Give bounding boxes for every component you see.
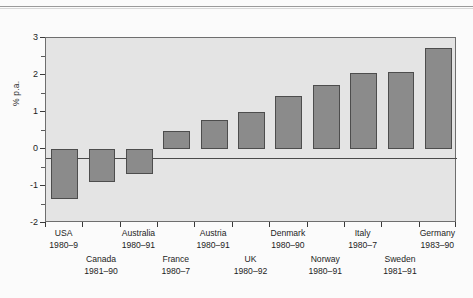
x-category-label: Australia1980–91 <box>108 228 168 251</box>
y-tick-label: 1 <box>16 107 38 116</box>
bar <box>425 48 452 149</box>
y-axis-tick-labels: -2-10123 <box>16 37 38 227</box>
category-period: 1980–91 <box>295 266 355 278</box>
bar <box>275 96 302 149</box>
category-name: Denmark <box>258 228 318 240</box>
x-category-label: Italy1980–7 <box>333 228 393 251</box>
x-category-label: Canada1981–90 <box>71 254 131 277</box>
y-tick-mark-major <box>40 148 45 149</box>
x-tick-mark <box>455 222 456 227</box>
x-category-label: Austria1980–91 <box>183 228 243 251</box>
x-tick-mark <box>307 222 308 227</box>
plot-area <box>45 37 456 222</box>
y-tick-mark-minor <box>41 56 45 57</box>
x-category-label: Denmark1980–90 <box>258 228 318 251</box>
y-tick-label: 0 <box>16 144 38 153</box>
category-period: 1980–9 <box>34 240 94 252</box>
page-canvas: % p.a. -2-10123 USA1980–9Canada1981–90Au… <box>0 0 473 298</box>
category-period: 1980–7 <box>333 240 393 252</box>
x-tick-mark <box>232 222 233 227</box>
y-tick-label: -1 <box>16 181 38 190</box>
x-category-label: Norway1980–91 <box>295 254 355 277</box>
category-period: 1980–7 <box>146 266 206 278</box>
y-tick-label: 2 <box>16 70 38 79</box>
x-tick-mark <box>344 222 345 227</box>
bar-series <box>46 38 457 223</box>
y-tick-mark-major <box>40 222 45 223</box>
category-name: USA <box>34 228 94 240</box>
category-period: 1980–90 <box>258 240 318 252</box>
y-tick-mark-major <box>40 185 45 186</box>
x-category-label: UK1980–92 <box>221 254 281 277</box>
bar-chart-figure: % p.a. -2-10123 USA1980–9Canada1981–90Au… <box>0 14 473 298</box>
category-name: Austria <box>183 228 243 240</box>
category-name: Norway <box>295 254 355 266</box>
y-tick-mark-minor <box>41 130 45 131</box>
category-period: 1980–91 <box>183 240 243 252</box>
x-category-label: Germany1983–90 <box>407 228 467 251</box>
x-axis-category-labels: USA1980–9Canada1981–90Australia1980–91Fr… <box>45 228 456 290</box>
category-name: UK <box>221 254 281 266</box>
bar <box>201 120 228 149</box>
bar <box>350 73 377 149</box>
y-tick-mark-major <box>40 74 45 75</box>
bar <box>388 72 415 149</box>
x-tick-mark <box>269 222 270 227</box>
bar <box>313 85 340 149</box>
category-name: France <box>146 254 206 266</box>
y-tick-mark-minor <box>41 93 45 94</box>
y-tick-mark-minor <box>41 167 45 168</box>
y-tick-mark-major <box>40 37 45 38</box>
x-category-label: Sweden1981–91 <box>370 254 430 277</box>
category-period: 1980–91 <box>108 240 168 252</box>
x-tick-mark <box>45 222 46 227</box>
bar <box>126 149 153 174</box>
page-top-rule-shadow <box>0 8 473 9</box>
y-tick-mark-major <box>40 111 45 112</box>
x-tick-mark <box>120 222 121 227</box>
x-category-label: France1980–7 <box>146 254 206 277</box>
bar <box>238 112 265 149</box>
category-name: Germany <box>407 228 467 240</box>
bar <box>51 149 78 199</box>
page-top-rule <box>0 6 473 7</box>
category-name: Canada <box>71 254 131 266</box>
x-category-label: USA1980–9 <box>34 228 94 251</box>
y-tick-label: 3 <box>16 33 38 42</box>
bar <box>89 149 116 182</box>
x-tick-mark <box>381 222 382 227</box>
x-tick-mark <box>419 222 420 227</box>
y-tick-mark-minor <box>41 204 45 205</box>
category-period: 1981–90 <box>71 266 131 278</box>
bar <box>163 131 190 149</box>
category-name: Italy <box>333 228 393 240</box>
category-period: 1980–92 <box>221 266 281 278</box>
x-tick-mark <box>194 222 195 227</box>
y-tick-label: -2 <box>16 218 38 227</box>
category-period: 1983–90 <box>407 240 467 252</box>
category-name: Australia <box>108 228 168 240</box>
category-name: Sweden <box>370 254 430 266</box>
x-tick-mark <box>82 222 83 227</box>
x-tick-mark <box>157 222 158 227</box>
category-period: 1981–91 <box>370 266 430 278</box>
